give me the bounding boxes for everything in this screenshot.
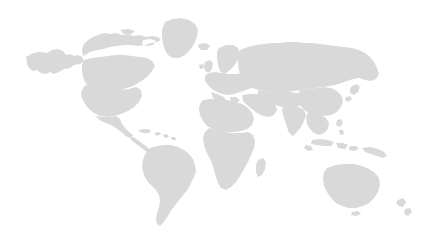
world-map-container (0, 0, 431, 244)
world-map (0, 0, 431, 244)
